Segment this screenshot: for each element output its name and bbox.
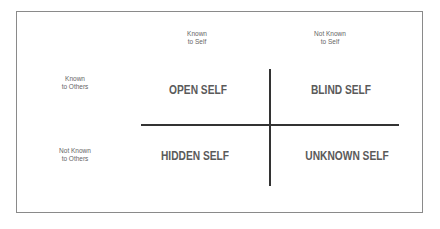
row-header-line2: to Others [35,83,115,91]
row-header-line1: Not Known [35,147,115,155]
row-header-known-to-others: Known to Others [35,75,115,91]
column-header-not-known-to-self: Not Known to Self [290,30,370,46]
quadrant-blind-self: BLIND SELF [282,83,401,97]
horizontal-divider [141,124,399,126]
column-header-line2: to Self [157,38,237,46]
quadrant-hidden-self: HIDDEN SELF [136,149,255,163]
row-header-line2: to Others [35,155,115,163]
column-header-known-to-self: Known to Self [157,30,237,46]
quadrant-unknown-self: UNKNOWN SELF [288,149,407,163]
column-header-line2: to Self [290,38,370,46]
column-header-line1: Not Known [290,30,370,38]
row-header-line1: Known [35,75,115,83]
vertical-divider [269,69,271,186]
column-header-line1: Known [157,30,237,38]
quadrant-open-self: OPEN SELF [139,83,258,97]
row-header-not-known-to-others: Not Known to Others [35,147,115,163]
